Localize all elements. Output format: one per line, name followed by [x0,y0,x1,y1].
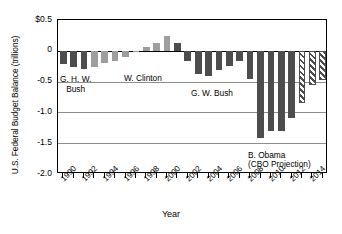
bar-1994 [101,51,108,64]
y-tick-3: -1.0 [0,106,52,116]
bar-2014 [309,51,316,86]
bar-2012 [288,51,295,118]
bar-1997 [133,51,140,52]
gridline [58,143,326,144]
bar-1995 [112,51,119,61]
annotation-clinton-line1: W. Clinton [124,74,162,83]
annotation-obama-line2: (CBO Projection) [248,160,311,169]
y-tick-1: 0 [0,44,52,54]
bar-2007 [236,51,243,61]
zero-axis-line [58,51,326,52]
bar-2015 [319,51,326,80]
chart-figure: U.S. Federal Budget Balance (trillions) … [0,0,342,234]
bar-2010 [268,51,275,131]
bar-1991 [70,51,77,68]
y-tick-2: -0.5 [0,75,52,85]
bar-2003 [195,51,202,74]
bar-2008 [247,51,254,79]
y-tick-5: -2.0 [0,168,52,178]
y-tick-4: -1.5 [0,137,52,147]
bar-2004 [205,51,212,76]
annotation-gw-bush-line1: G. W. Bush [191,89,233,98]
bar-2002 [184,51,191,61]
bar-2011 [278,51,285,131]
bar-1999 [153,43,160,51]
annotation-obama: B. Obama (CBO Projection) [248,151,311,170]
bar-2000 [164,36,171,51]
bar-1992 [81,51,88,69]
plot-area: G. H. W. Bush W. Clinton G. W. Bush B. O… [57,19,327,173]
bar-2013 [299,51,306,103]
bar-2001 [174,43,181,51]
bar-1993 [91,51,98,67]
gridline [58,112,326,113]
bar-2009 [257,51,264,138]
bar-2005 [216,51,223,71]
annotation-ghw-bush: G. H. W. Bush [60,75,91,94]
annotation-ghw-bush-line2: Bush [60,85,91,94]
y-tick-0: $0.5 [0,14,52,24]
annotation-gw-bush: G. W. Bush [191,89,233,98]
annotation-clinton: W. Clinton [124,74,162,83]
gridline [58,82,326,83]
bar-1990 [60,51,67,65]
bar-1998 [143,47,150,51]
bar-2006 [226,51,233,66]
x-axis-title: Year [0,209,342,219]
bar-1996 [122,51,129,58]
